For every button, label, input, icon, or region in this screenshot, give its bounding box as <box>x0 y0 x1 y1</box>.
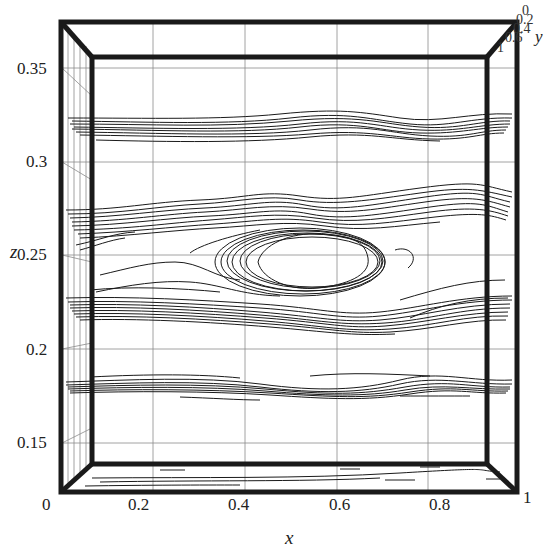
z-tick-0.25: 0.25 <box>17 246 47 263</box>
z-tick-0.35: 0.35 <box>17 60 47 77</box>
band-lower <box>66 374 512 400</box>
floor-lines <box>85 467 500 486</box>
x-tick-0: 0 <box>42 496 51 513</box>
band-mid-lower <box>66 280 512 335</box>
x-axis-label: x <box>285 527 293 549</box>
x-tick-0.8: 0.8 <box>429 496 450 513</box>
box-frame <box>61 22 517 492</box>
x-tick-0.4: 0.4 <box>228 496 249 513</box>
x-tick-0.2: 0.2 <box>128 496 149 513</box>
z-tick-0.2: 0.2 <box>26 341 47 358</box>
y-axis-label: y <box>535 27 543 47</box>
z-tick-0.15: 0.15 <box>17 434 47 451</box>
x-tick-0.6: 0.6 <box>329 496 350 513</box>
gridlines <box>61 20 517 492</box>
band-mid-upper <box>66 184 512 250</box>
z-tick-0.3: 0.3 <box>26 153 47 170</box>
streamlines <box>66 111 512 486</box>
band-upper <box>68 111 512 142</box>
y-tick-0.6: 0.6 <box>505 30 523 46</box>
vortex-cell <box>96 228 413 296</box>
z-axis-label: z <box>10 241 17 263</box>
y-tick-1: 1 <box>497 40 504 56</box>
x-tick-1: 1 <box>523 489 532 506</box>
streamline-3d-plot <box>0 0 556 559</box>
